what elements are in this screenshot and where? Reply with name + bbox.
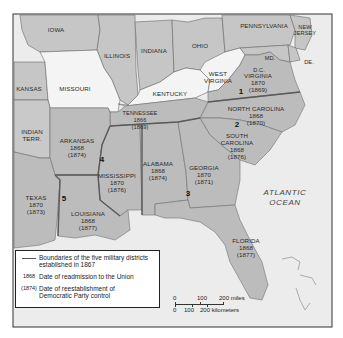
scale-miles-0: 0: [173, 295, 176, 301]
scale-km-0: 0: [173, 307, 176, 313]
legend-text: Boundaries of the five military district…: [39, 254, 154, 268]
label-ohio: OHIO: [192, 42, 208, 49]
label-illinois: ILLINOIS: [104, 52, 130, 59]
label-indiana: INDIANA: [141, 47, 168, 54]
legend-line-swatch: [19, 254, 39, 261]
legend-item-readmission: 1868 Date of readmission to the Union: [19, 273, 157, 280]
scale-miles-200: 200 miles: [219, 295, 245, 301]
ocean-label: ATLANTICOCEAN: [263, 188, 307, 207]
state-kansas: [14, 62, 48, 100]
label-pennsylvania: PENNSYLVANIA: [240, 22, 289, 29]
label-delaware: DE.: [304, 59, 314, 65]
district-3: 3: [186, 189, 191, 198]
district-2: 2: [235, 120, 240, 129]
scale-km-200: 200 kilometers: [200, 307, 239, 313]
label-kansas: KANSAS: [16, 85, 42, 92]
scale-bar: 0 100 200 miles 0 100 200 kilometers: [170, 295, 250, 325]
legend-key: 1868: [19, 273, 39, 280]
label-missouri: MISSOURI: [59, 85, 91, 92]
legend-item-democratic-control: (1874) Date of reestablishment of Democr…: [19, 285, 139, 299]
scale-line: [175, 304, 223, 305]
district-4: 4: [100, 155, 105, 164]
district-1: 1: [239, 87, 244, 96]
legend-text: Date of readmission to the Union: [39, 273, 157, 280]
label-kentucky: KENTUCKY: [153, 90, 188, 97]
legend: Boundaries of the five military district…: [15, 250, 160, 308]
label-iowa: IOWA: [48, 26, 65, 33]
label-indian-territory: INDIANTERR.: [21, 128, 43, 142]
legend-text: Date of reestablishment of Democratic Pa…: [39, 285, 139, 299]
state-iowa: [20, 15, 100, 52]
label-maryland: MD.: [265, 55, 276, 61]
scale-km-100: 100: [184, 307, 194, 313]
scale-miles-100: 100: [197, 295, 207, 301]
district-5: 5: [62, 194, 67, 203]
legend-key: (1874): [19, 285, 39, 292]
legend-item-district-boundary: Boundaries of the five military district…: [19, 254, 154, 268]
